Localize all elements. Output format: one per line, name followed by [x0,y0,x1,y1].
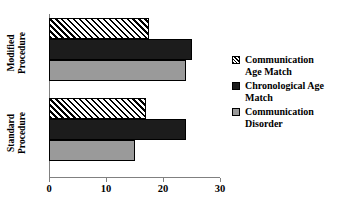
legend-swatch-chronological-age-match [232,82,240,90]
y-axis-category-standard-procedure: Standard Procedure [6,93,28,173]
y-axis-category-modified-procedure: Modified Procedure [6,13,28,93]
x-axis-tick-20 [163,178,164,182]
legend-item-communication-disorder: Communication Disorder [232,106,344,129]
x-axis-label-20: 20 [143,183,183,194]
legend-label-line2: Match [245,92,344,104]
legend-item-chronological-age-match: Chronological Age Match [232,80,344,103]
y-axis-category-label-line1: Standard [6,93,17,173]
bar-standard-chronological-age-match [49,119,186,140]
x-axis-tick-0 [49,178,50,182]
x-axis-tick-10 [106,178,107,182]
bar-standard-communication-age-match [49,98,146,119]
legend-swatch-communication-age-match [232,56,240,64]
bar-modified-chronological-age-match [49,39,192,60]
legend-item-communication-age-match: Communication Age Match [232,54,344,77]
x-axis-label-30: 30 [200,183,240,194]
legend-label-line1: Communication [245,106,344,118]
y-axis-category-label-line2: Procedure [17,93,28,173]
bar-standard-communication-disorder [49,140,135,161]
bar-chart: Modified Procedure Standard Procedure 0 … [0,0,345,204]
legend-label-line1: Communication [245,54,344,66]
legend-label-line1: Chronological Age [245,80,344,92]
x-axis-label-10: 10 [86,183,126,194]
bar-modified-communication-disorder [49,60,186,81]
plot-area [49,14,220,178]
legend-label-line2: Age Match [245,66,344,78]
legend-label-line2: Disorder [245,118,344,130]
chart-legend: Communication Age Match Chronological Ag… [232,54,344,132]
bar-modified-communication-age-match [49,18,149,39]
x-axis-label-0: 0 [29,183,69,194]
y-axis-category-label-line2: Procedure [17,13,28,93]
y-axis-category-label-line1: Modified [6,13,17,93]
legend-swatch-communication-disorder [232,108,240,116]
x-axis-tick-30 [220,178,221,182]
